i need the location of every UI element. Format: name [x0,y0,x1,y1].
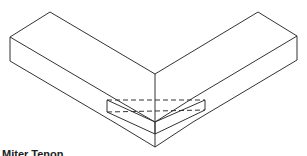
figure-caption: Miter Tenon [2,148,64,156]
tenon [107,100,205,134]
miter-joint-diagram [0,0,307,156]
right-board [155,12,297,147]
left-board [10,12,155,147]
